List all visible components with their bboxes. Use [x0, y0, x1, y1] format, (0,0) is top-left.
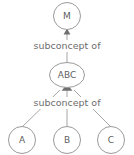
- node-b-label: B: [64, 135, 70, 145]
- edge-label-subconcept-of-bottom: subconcept of: [33, 97, 101, 108]
- concept-hierarchy-diagram: subconcept of subconcept of M ABC A B C: [0, 0, 134, 155]
- node-a-label: A: [19, 135, 26, 145]
- node-abc-label: ABC: [58, 70, 76, 80]
- node-m-label: M: [63, 11, 71, 21]
- diagram-canvas: subconcept of subconcept of M ABC A B C: [0, 0, 134, 155]
- node-m[interactable]: M: [54, 3, 81, 30]
- node-c[interactable]: C: [98, 127, 125, 154]
- node-c-label: C: [108, 135, 114, 145]
- edge-label-subconcept-of-top: subconcept of: [33, 40, 101, 51]
- node-a[interactable]: A: [9, 127, 36, 154]
- node-abc[interactable]: ABC: [50, 63, 85, 88]
- node-b[interactable]: B: [54, 127, 81, 154]
